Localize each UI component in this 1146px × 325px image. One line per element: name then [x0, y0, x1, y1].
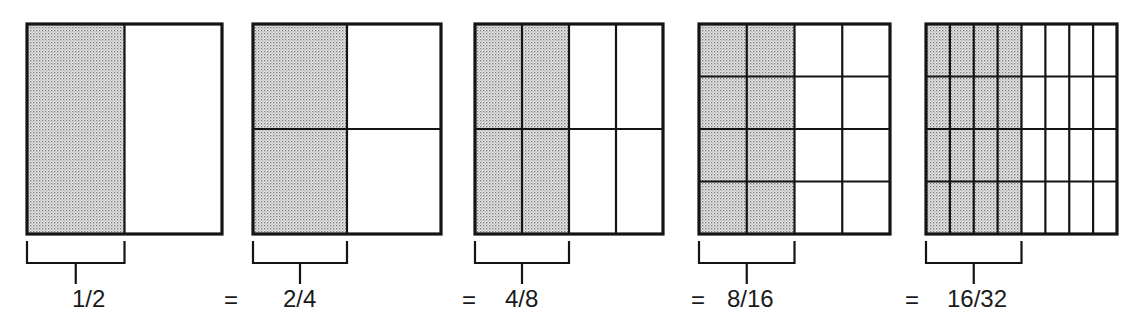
fraction-label: 1/2 — [72, 287, 105, 311]
bracket — [27, 241, 125, 263]
equals-sign: = — [905, 288, 919, 312]
fraction-label: 2/4 — [283, 287, 316, 311]
fraction-diagram — [0, 0, 1146, 325]
equals-sign: = — [691, 288, 705, 312]
fraction-label: 8/16 — [727, 287, 774, 311]
fraction-panel-8-over-16 — [699, 24, 890, 284]
shaded-region — [27, 24, 125, 234]
bracket — [475, 241, 569, 263]
fraction-panel-4-over-8 — [475, 24, 663, 284]
bracket — [699, 241, 795, 263]
fraction-label: 16/32 — [947, 287, 1007, 311]
equals-sign: = — [462, 288, 476, 312]
bracket — [253, 241, 347, 263]
bracket — [926, 241, 1022, 263]
fraction-panel-2-over-4 — [253, 24, 441, 284]
equals-sign: = — [224, 288, 238, 312]
fraction-panel-16-over-32 — [926, 24, 1117, 284]
fraction-panel-1-over-2 — [27, 24, 222, 284]
fraction-label: 4/8 — [505, 287, 538, 311]
